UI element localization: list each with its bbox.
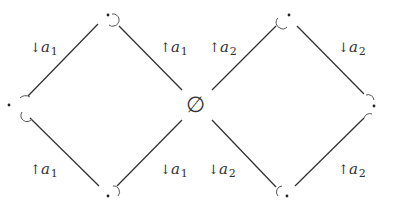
label-sub: 1 xyxy=(51,45,58,58)
edge-center-tr xyxy=(212,26,276,90)
hook-tl xyxy=(109,14,119,26)
label-var: a xyxy=(171,160,180,178)
label-sub: 1 xyxy=(181,45,188,58)
hook-left-top xyxy=(20,96,30,98)
edge-label-tl-left: ↓a1 xyxy=(30,40,58,57)
node-left xyxy=(8,104,11,107)
label-var: a xyxy=(220,38,229,56)
edge-tl-center xyxy=(119,26,182,90)
node-top-left xyxy=(107,14,110,17)
label-var: a xyxy=(41,160,50,178)
arrow-up-icon: ↑ xyxy=(209,40,220,55)
label-sub: 2 xyxy=(230,45,237,58)
label-sub: 1 xyxy=(181,167,188,180)
hook-right-top xyxy=(366,95,374,100)
hook-tr xyxy=(276,18,287,29)
label-var: a xyxy=(219,160,228,178)
label-sub: 2 xyxy=(229,167,236,180)
node-top-right xyxy=(288,14,291,17)
label-var: a xyxy=(349,160,358,178)
arrow-up-icon: ↑ xyxy=(30,162,41,177)
edge-label-left-bl: ↑a1 xyxy=(30,162,58,179)
edge-tl-left xyxy=(28,24,98,96)
hook-br xyxy=(276,186,282,196)
node-bottom-left xyxy=(107,195,110,198)
arrow-down-icon: ↓ xyxy=(30,40,41,55)
empty-set-node: ∅ xyxy=(186,94,205,116)
node-bottom-right xyxy=(286,195,289,198)
label-sub: 2 xyxy=(359,45,366,58)
arrow-down-icon: ↓ xyxy=(338,40,349,55)
edge-label-tl-center: ↑a1 xyxy=(160,40,188,57)
node-right xyxy=(373,105,376,108)
label-sub: 1 xyxy=(51,167,58,180)
arrow-down-icon: ↓ xyxy=(160,162,171,177)
hook-left-bot xyxy=(21,112,32,122)
hook-bl xyxy=(113,186,120,196)
edge-label-tr-right: ↓a2 xyxy=(338,40,366,57)
arrow-up-icon: ↑ xyxy=(160,40,171,55)
label-var: a xyxy=(171,38,180,56)
label-var: a xyxy=(41,38,50,56)
arrow-down-icon: ↓ xyxy=(208,162,219,177)
label-sub: 2 xyxy=(359,167,366,180)
edge-label-center-tr: ↑a2 xyxy=(209,40,237,57)
arrow-up-icon: ↑ xyxy=(338,162,349,177)
edge-tr-right xyxy=(297,26,364,94)
edge-label-br-right: ↑a2 xyxy=(338,162,366,179)
hook-right-bot xyxy=(364,114,372,118)
edge-label-bl-center: ↓a1 xyxy=(160,162,188,179)
edge-label-center-br: ↓a2 xyxy=(208,162,236,179)
label-var: a xyxy=(349,38,358,56)
